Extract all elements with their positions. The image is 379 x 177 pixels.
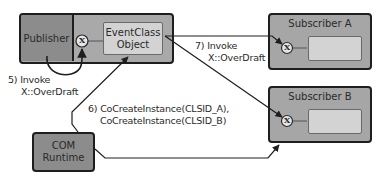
step6-arrow-subscriber-b (95, 145, 279, 158)
step5-arrow (47, 49, 82, 75)
subscriber-a-x-glyph: X (283, 42, 291, 53)
step6-label-line1: 6) CoCreateInstance(CLSID_A), (88, 103, 229, 114)
step7-label-line2: X::OverDraft (208, 52, 265, 63)
subscriber-b-x-glyph: X (283, 115, 291, 126)
publisher-x-glyph: X (78, 35, 86, 46)
step6-label-line2: CoCreateInstance(CLSID_B) (100, 115, 226, 126)
step5-label-line2: X::OverDraft (21, 86, 78, 97)
step7-label-line1: 7) Invoke (195, 40, 237, 51)
step5-label-line1: 5) Invoke (8, 74, 50, 85)
